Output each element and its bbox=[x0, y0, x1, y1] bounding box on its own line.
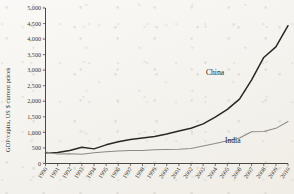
series-group bbox=[46, 26, 289, 154]
x-tick-label: 1993 bbox=[73, 166, 85, 179]
x-tick-label: 1998 bbox=[134, 166, 146, 179]
chart-screenshot: GDP/capita, US $ current prices 05001,00… bbox=[0, 0, 294, 194]
x-tick-label: 2004 bbox=[206, 166, 218, 179]
x-tick-label: 2006 bbox=[231, 166, 243, 179]
y-tick-label: 4,500 bbox=[27, 21, 41, 27]
x-tick-label: 2008 bbox=[255, 166, 267, 179]
y-tick-label: 4,000 bbox=[27, 36, 41, 42]
series-line-china bbox=[46, 26, 289, 153]
y-tick-label: 5,000 bbox=[27, 5, 41, 11]
x-tick-label: 1992 bbox=[61, 166, 73, 179]
x-tick-label: 1995 bbox=[97, 166, 109, 179]
y-axis-title: GDP/capita, US $ current prices bbox=[4, 67, 11, 152]
series-annotation-india: India bbox=[225, 136, 241, 145]
x-tick-label: 1991 bbox=[49, 166, 61, 179]
x-tick-label: 2001 bbox=[170, 166, 182, 179]
x-tick-label: 2000 bbox=[158, 166, 170, 179]
y-tick-label: 1,000 bbox=[27, 130, 41, 136]
x-tick-label: 1997 bbox=[121, 166, 133, 179]
y-tick-label: 1,500 bbox=[27, 114, 41, 120]
y-tick-label: 3,500 bbox=[27, 52, 41, 58]
y-tick-label: 2,000 bbox=[27, 98, 41, 104]
x-tick-label: 2003 bbox=[194, 166, 206, 179]
line-chart: GDP/capita, US $ current prices 05001,00… bbox=[0, 0, 294, 194]
x-tick-label: 1999 bbox=[146, 166, 158, 179]
y-tick-label: 2,500 bbox=[27, 83, 41, 89]
x-tick-label: 2010 bbox=[279, 166, 291, 179]
y-tick-label: 500 bbox=[32, 145, 41, 151]
x-tick-label: 1990 bbox=[37, 166, 49, 179]
x-tick-label: 1996 bbox=[109, 166, 121, 179]
x-tick-label: 2007 bbox=[243, 166, 255, 179]
x-tick-label: 2005 bbox=[218, 166, 230, 179]
y-tick-label: 0 bbox=[38, 161, 41, 167]
x-tick-label: 2002 bbox=[182, 166, 194, 179]
y-axis-ticks: 05001,0001,5002,0002,5003,0003,5004,0004… bbox=[27, 5, 45, 167]
series-annotation-china: China bbox=[206, 68, 225, 77]
x-tick-label: 1994 bbox=[85, 166, 97, 179]
x-axis-ticks: 1990199119921993199419951996199719981999… bbox=[37, 164, 291, 180]
series-line-india bbox=[46, 122, 289, 155]
y-axis-title-text: GDP/capita, US $ current prices bbox=[4, 67, 11, 152]
x-tick-label: 2009 bbox=[267, 166, 279, 179]
y-tick-label: 3,000 bbox=[27, 67, 41, 73]
